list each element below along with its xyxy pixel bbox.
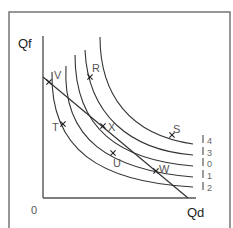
svg-text:0: 0 bbox=[207, 159, 212, 169]
indifference-curve-3 bbox=[85, 50, 193, 155]
point-label: U bbox=[113, 157, 121, 169]
point-label: X bbox=[108, 121, 116, 133]
point-u: U bbox=[110, 150, 121, 169]
point-label: T bbox=[52, 121, 59, 133]
curve-label-i1: 1 bbox=[203, 170, 212, 181]
curve-labels: 43012 bbox=[203, 135, 212, 193]
bundle-points: VRTXUWS bbox=[46, 62, 180, 175]
svg-text:4: 4 bbox=[207, 136, 212, 146]
origin-label: 0 bbox=[31, 204, 37, 216]
figure-frame bbox=[9, 12, 230, 228]
svg-text:2: 2 bbox=[207, 183, 212, 193]
curve-label-i4: 4 bbox=[203, 135, 212, 146]
point-t: T bbox=[52, 121, 66, 133]
curve-label-i2: 2 bbox=[203, 182, 212, 193]
y-axis-label: Qf bbox=[18, 36, 32, 51]
x-axis-label: Qd bbox=[187, 205, 204, 220]
point-v: V bbox=[46, 69, 62, 85]
svg-text:3: 3 bbox=[207, 148, 212, 158]
indifference-curve-diagram: Qf Qd 0 VRTXUWS 43012 bbox=[0, 0, 233, 228]
svg-text:1: 1 bbox=[207, 171, 212, 181]
point-label: V bbox=[54, 69, 62, 81]
curve-label-i0: 0 bbox=[203, 158, 212, 169]
indifference-curve-1 bbox=[66, 66, 193, 177]
indifference-curves bbox=[52, 37, 193, 187]
point-label: S bbox=[173, 123, 180, 135]
point-r: R bbox=[87, 62, 100, 80]
point-label: W bbox=[159, 163, 170, 175]
point-label: R bbox=[92, 62, 100, 74]
point-x: X bbox=[100, 121, 116, 133]
point-s: S bbox=[169, 123, 180, 138]
point-w: W bbox=[153, 163, 170, 175]
curve-label-i3: 3 bbox=[203, 147, 212, 158]
